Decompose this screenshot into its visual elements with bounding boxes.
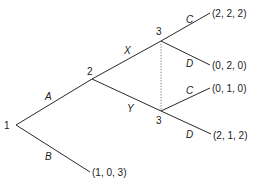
game-tree: 1 2 3 3 A B X Y C D C D (2, 2, 2) (0, 2,…	[0, 0, 257, 184]
node-1-label: 1	[4, 120, 10, 131]
action-B-label: B	[45, 151, 52, 162]
action-X-label: X	[123, 45, 131, 56]
action-upper-C-label: C	[186, 14, 194, 25]
action-Y-label: Y	[127, 103, 135, 114]
payoff-upper-D: (0, 2, 0)	[212, 60, 246, 71]
action-lower-C-label: C	[186, 85, 194, 96]
payoff-lower-C: (0, 1, 0)	[212, 83, 246, 94]
payoff-B: (1, 0, 3)	[92, 167, 126, 178]
node-3-lower-label: 3	[156, 115, 162, 126]
edge-B	[16, 125, 90, 172]
node-2-label: 2	[87, 66, 93, 77]
action-lower-D-label: D	[186, 129, 193, 140]
action-A-label: A	[44, 91, 52, 102]
edge-A	[16, 79, 92, 125]
node-3-upper-label: 3	[156, 26, 162, 37]
action-upper-D-label: D	[186, 58, 193, 69]
payoff-lower-D: (2, 1, 2)	[213, 130, 247, 141]
payoff-upper-C: (2, 2, 2)	[212, 8, 246, 19]
